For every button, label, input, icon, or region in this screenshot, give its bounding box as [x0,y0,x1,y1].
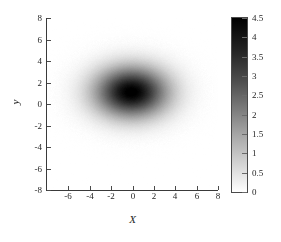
y-tick-label: 4 [25,57,42,66]
colorbar-tick-label: 3.5 [252,53,278,62]
y-tick-label: -6 [25,165,42,174]
colorbar: 00.511.522.533.544.5 [231,17,281,193]
colorbar-tick-label: 2 [252,111,278,120]
y-tick-mark [47,18,51,19]
colorbar-tick-mark [242,95,247,96]
colorbar-tick-mark [242,76,247,77]
colorbar-tick-mark [242,134,247,135]
x-tick-mark [133,186,134,190]
colorbar-tick-label: 3 [252,72,278,81]
colorbar-tick-mark [242,57,247,58]
x-tick-label: -6 [59,192,77,201]
y-tick-label: 8 [25,14,42,23]
y-tick-label: 0 [25,100,42,109]
y-tick-mark [47,40,51,41]
plot-area [47,18,218,190]
y-tick-mark [47,126,51,127]
x-tick-label: 4 [166,192,184,201]
x-tick-mark [68,186,69,190]
figure-root: -8-6-4-202468 -6-4-202468 X y 00.511.522… [0,0,281,242]
x-tick-label: -2 [102,192,120,201]
x-tick-label: -4 [81,192,99,201]
x-tick-mark [111,186,112,190]
x-tick-label: 2 [145,192,163,201]
x-axis-label: X [0,213,265,225]
colorbar-tick-mark [242,115,247,116]
x-tick-label: 6 [188,192,206,201]
colorbar-tick-label: 4.5 [252,14,278,23]
colorbar-tick-mark [242,173,247,174]
y-tick-label: 2 [25,79,42,88]
colorbar-tick-mark [242,18,247,19]
colorbar-tick-label: 1 [252,149,278,158]
colorbar-tick-label: 4 [252,33,278,42]
x-tick-mark [90,186,91,190]
x-tick-mark [197,186,198,190]
y-tick-mark [47,83,51,84]
colorbar-tick-label: 1.5 [252,130,278,139]
x-tick-mark [218,186,219,190]
y-tick-label: -2 [25,122,42,131]
y-tick-mark [47,104,51,105]
y-tick-mark [47,61,51,62]
y-tick-mark [47,169,51,170]
y-axis-label: y [9,82,21,122]
density-heatmap-canvas [47,18,218,190]
colorbar-tick-label: 0 [252,188,278,197]
y-tick-label: 6 [25,36,42,45]
x-tick-mark [175,186,176,190]
x-tick-mark [154,186,155,190]
x-tick-label: 8 [209,192,227,201]
colorbar-tick-mark [242,192,247,193]
colorbar-tick-label: 2.5 [252,91,278,100]
y-tick-mark [47,190,51,191]
colorbar-tick-label: 0.5 [252,169,278,178]
y-tick-label: -8 [25,186,42,195]
y-tick-label: -4 [25,143,42,152]
y-tick-mark [47,147,51,148]
x-tick-label: 0 [124,192,142,201]
colorbar-gradient [231,17,248,193]
colorbar-tick-mark [242,153,247,154]
colorbar-tick-mark [242,37,247,38]
